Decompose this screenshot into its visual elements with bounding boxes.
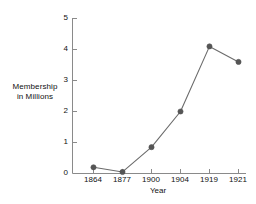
data-point-1904 [178, 109, 183, 114]
x-axis-title: Year [70, 186, 246, 195]
data-point-1900 [149, 145, 154, 150]
data-point-1864 [91, 165, 96, 170]
plot-area [0, 0, 256, 204]
x-tick-label-5: 1921 [221, 175, 255, 184]
series-markers-membership [91, 44, 241, 175]
data-point-1919 [207, 44, 212, 49]
data-point-1921 [236, 59, 241, 64]
chart-figure: Membership in Millions 0 1 2 3 4 5 1864 … [0, 0, 256, 204]
data-point-1877 [120, 169, 125, 174]
series-line-membership [94, 46, 239, 172]
